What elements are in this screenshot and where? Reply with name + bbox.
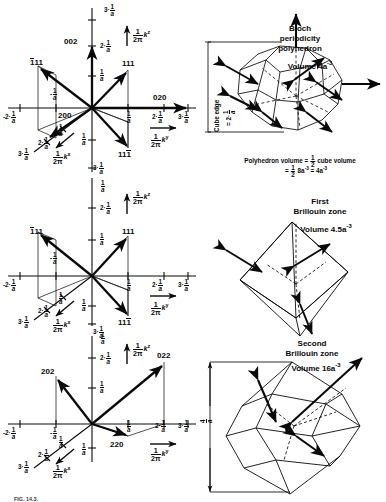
tick-label-kx-1a: 1a [58, 124, 64, 137]
mid-tick-ky-3a: 3·1a [178, 279, 189, 292]
bot-axis-label-kx: 12πkx [52, 464, 70, 479]
title-first-bz-line1: First [311, 198, 328, 206]
tick-label-kz-neg3a: 3·1a [93, 162, 104, 175]
vector-label-202: 202 [41, 368, 54, 376]
mid-tick-ky-1a: 1a [126, 279, 132, 292]
vector-label-11bar1bar-top: 111 [118, 150, 131, 159]
figure-caption: FIG. 14.3. [14, 496, 38, 502]
bot-tick-kz-3a-top: 1a [100, 332, 106, 345]
dim-label-cube-edge: Cube edge [214, 100, 221, 132]
vector-label-1bar11-mid: 111 [30, 227, 43, 236]
mid-tick-kz-3a-top: 1a [100, 180, 106, 193]
vector-label-002: 002 [64, 38, 77, 46]
bot-tick-ky-2a: 2·1a [155, 420, 166, 433]
title-bloch-line3: polyhedron [278, 45, 322, 53]
vector-label-111-top: 111 [122, 60, 134, 68]
vector-label-11bar1bar-mid: 111 [118, 318, 131, 327]
panel-bottom-right-graphic [196, 336, 386, 502]
mid-tick-ky-neg2a: -2·1a [3, 279, 16, 292]
mid-tick-kx-3a: 3·1a [18, 316, 29, 329]
tick-label-kz-2a: 2·1a [100, 40, 111, 53]
title-second-bz-line1: Second [298, 340, 327, 348]
bot-tick-kx-1a: 1a [58, 436, 64, 449]
tick-label-kz-1a: 1a [99, 69, 105, 82]
figure-root: 3·1a 2·1a 1a 1a 3·1a -2·1a -1a 1a 2·1a 3… [0, 0, 386, 502]
tick-label-kz-3a-top: 3·1a [104, 4, 115, 17]
bot-tick-ky-1a: 1a [126, 420, 132, 433]
axis-label-kx: 12πkx [52, 150, 70, 165]
title-bloch-line2: periodicity [280, 35, 320, 43]
volume-second-bz: Volume 16a-3 [291, 362, 340, 373]
bot-tick-kz-1a: 1a [99, 381, 105, 394]
mid-axis-label-kx: 12πkx [52, 318, 70, 333]
vector-label-1bar11-top: 111 [30, 58, 43, 67]
vector-label-020: 020 [153, 94, 166, 102]
mid-axis-label-kz: 12πkz [132, 190, 150, 205]
mid-tick-kz-2a: 2·1a [100, 202, 111, 215]
dim-label-second-bz-height: 4a [200, 418, 213, 424]
mid-tick-kx-1a: 1a [58, 292, 64, 305]
tick-label-ky-neg1a: -1a [50, 88, 58, 101]
bot-tick-kz-2a: 2·1a [100, 352, 111, 365]
tick-label-kx-2a: 2·1a [38, 137, 49, 150]
mid-tick-kz-1a: 1a [99, 233, 105, 246]
axis-label-kz: 12πkz [132, 28, 150, 43]
bot-tick-kx-3a: 3·1a [18, 461, 29, 474]
vector-label-022: 022 [157, 352, 170, 360]
bot-tick-ky-neg1a: -1a [50, 427, 58, 440]
panel-top-left-graphic [0, 0, 200, 178]
mid-tick-ky-neg1a: -1a [50, 252, 58, 265]
bot-tick-ky-neg2a: -2·1a [3, 427, 16, 440]
mid-axis-label-ky: 12πky [150, 301, 168, 316]
title-second-bz-line2: Brillouin zone [286, 350, 339, 358]
tick-label-kx-3a: 3·1a [18, 148, 29, 161]
volume-first-bz: Volume 4.5a-3 [300, 223, 351, 234]
vector-label-111-mid: 111 [122, 228, 134, 236]
volume-bloch: Volume 4a-3 [288, 60, 333, 71]
axis-label-ky: 12πky [150, 133, 168, 148]
tick-label-ky-neg2a: -2·1a [3, 111, 16, 124]
vector-label-220: 220 [110, 441, 123, 449]
tick-label-ky-3a: 3·1a [178, 111, 189, 124]
bot-tick-ky-3a: 3·1a [178, 420, 189, 433]
bot-tick-kx-2a: 2·1a [38, 449, 49, 462]
vector-label-200: 200 [58, 112, 71, 120]
mid-tick-ky-2a: 2·1a [152, 279, 163, 292]
dim-label-cube-edge-value: = 2·1a [223, 109, 236, 126]
mid-tick-kz-neg1a: 1a [81, 299, 87, 312]
tick-label-ky-1a: 1a [126, 111, 132, 124]
title-first-bz-line2: Brillouin zone [294, 208, 347, 216]
bot-axis-label-kz: 12πkz [132, 342, 150, 357]
title-bloch-line1: Bloch [289, 25, 311, 33]
tick-label-kz-neg1a: 1a [81, 133, 87, 146]
panel-mid-right-graphic [196, 188, 386, 338]
bot-axis-label-ky: 12πky [150, 447, 168, 462]
bot-tick-kz-neg1a: 1a [81, 443, 87, 456]
tick-label-ky-2a: 2·1a [152, 111, 163, 124]
mid-tick-kx-2a: 2·1a [38, 305, 49, 318]
formula-polyhedron-volume-line2: = 12 8a-3 = 4a-3 [285, 165, 327, 178]
